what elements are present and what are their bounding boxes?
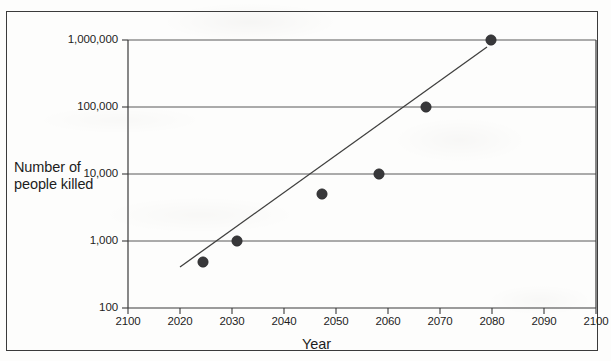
data-point bbox=[486, 35, 496, 45]
y-axis-title-line2: people killed bbox=[14, 176, 126, 193]
data-point bbox=[232, 236, 242, 246]
scanned-page: 1,000,000 100,000 10,000 1,000 100 2100 … bbox=[0, 0, 611, 361]
x-tick-label: 2090 bbox=[522, 315, 566, 327]
x-tick-marks bbox=[128, 308, 596, 314]
x-tick-label: 2030 bbox=[210, 315, 254, 327]
y-tick-label: 1,000 bbox=[48, 234, 118, 246]
data-point bbox=[374, 169, 384, 179]
data-point bbox=[317, 189, 327, 199]
x-tick-label: 2100 bbox=[574, 315, 611, 327]
x-tick-label: 2070 bbox=[418, 315, 462, 327]
x-tick-label: 2040 bbox=[262, 315, 306, 327]
data-point bbox=[421, 102, 431, 112]
x-tick-label: 2020 bbox=[158, 315, 202, 327]
y-tick-label: 100 bbox=[48, 301, 118, 313]
gridlines bbox=[128, 40, 596, 241]
x-tick-label: 2080 bbox=[470, 315, 514, 327]
trendline bbox=[180, 47, 487, 267]
data-points bbox=[198, 35, 496, 267]
x-axis-title: Year bbox=[0, 336, 611, 352]
x-tick-label: 2060 bbox=[366, 315, 410, 327]
y-axis-title-line1: Number of bbox=[14, 159, 126, 176]
x-tick-label: 2100 bbox=[106, 315, 150, 327]
y-tick-label: 1,000,000 bbox=[48, 33, 118, 45]
y-tick-label: 100,000 bbox=[48, 100, 118, 112]
x-tick-label: 2050 bbox=[314, 315, 358, 327]
data-point bbox=[198, 257, 208, 267]
y-axis-title: Number of people killed bbox=[14, 159, 126, 192]
